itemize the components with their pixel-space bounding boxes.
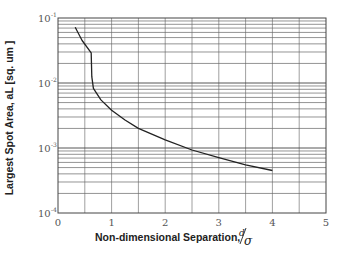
y-tick-labels: 10-110-210-310-4	[38, 11, 57, 219]
series-line	[75, 27, 272, 170]
y-tick-label: 10-3	[38, 141, 57, 154]
x-tick-label: 3	[216, 217, 222, 228]
grid	[58, 18, 326, 213]
y-tick-base: 10	[38, 13, 51, 24]
chart: 012345 10-110-210-310-4 Largest Spot Are…	[0, 0, 342, 263]
y-tick-base: 10	[38, 143, 51, 154]
y-tick-exponent: -2	[51, 76, 57, 83]
x-tick-label: 0	[55, 217, 61, 228]
x-tick-label: 5	[323, 217, 329, 228]
y-tick-exponent: -3	[51, 141, 57, 148]
series-layer	[75, 27, 272, 170]
x-tick-label: 1	[108, 217, 114, 228]
x-axis-title-group: Non-dimensional Separation, d σ	[95, 228, 253, 248]
y-axis-title: Largest Spot Area, aL [sq. um ]	[3, 41, 15, 196]
y-tick-exponent: -4	[51, 206, 57, 213]
y-tick-base: 10	[38, 78, 51, 89]
x-axis-title: Non-dimensional Separation,	[95, 231, 240, 243]
y-tick-exponent: -1	[51, 11, 57, 18]
x-tick-labels: 012345	[55, 217, 329, 228]
x-tick-label: 2	[162, 217, 168, 228]
y-tick-label: 10-2	[38, 76, 57, 89]
y-tick-base: 10	[38, 208, 51, 219]
x-axis-symbol-denominator: σ	[244, 234, 253, 248]
y-tick-label: 10-1	[38, 11, 57, 24]
x-tick-label: 4	[269, 217, 275, 228]
